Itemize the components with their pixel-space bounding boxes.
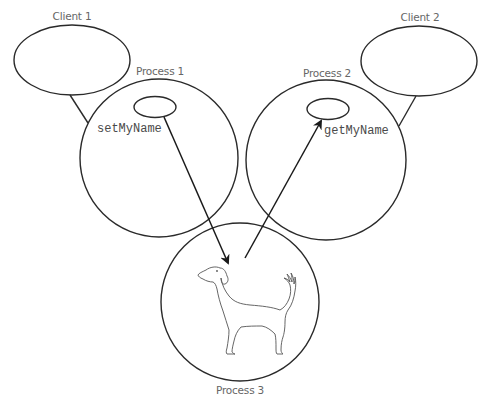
arrow-get-my-name	[245, 121, 321, 258]
dog-icon	[198, 267, 296, 354]
client-1-ellipse	[14, 25, 130, 95]
client-1-label: Client 1	[53, 10, 92, 22]
process-2-circle	[246, 80, 406, 240]
client-1-node: Client 1	[14, 10, 130, 95]
process-3-node: Process 3	[161, 223, 319, 396]
client-2-label: Client 2	[401, 11, 440, 23]
process-2-object	[307, 99, 349, 120]
client-2-connector	[399, 96, 416, 126]
process-2-method: getMyName	[324, 124, 389, 138]
process-1-node: Process 1 setMyName	[80, 65, 238, 237]
process-1-circle	[80, 79, 238, 237]
arrow-set-my-name	[164, 117, 228, 263]
diagram-canvas: Client 1 Client 2 Process 1 setMyName Pr…	[0, 0, 489, 403]
process-3-circle	[161, 223, 319, 381]
process-1-label: Process 1	[136, 65, 184, 77]
process-1-object	[134, 97, 176, 118]
process-3-label: Process 3	[216, 384, 264, 396]
dog-eye	[216, 270, 218, 272]
process-2-label: Process 2	[303, 67, 351, 79]
client-2-ellipse	[361, 26, 477, 96]
client-2-node: Client 2	[361, 11, 477, 96]
process-1-method: setMyName	[97, 122, 162, 136]
client-1-connector	[70, 95, 88, 123]
